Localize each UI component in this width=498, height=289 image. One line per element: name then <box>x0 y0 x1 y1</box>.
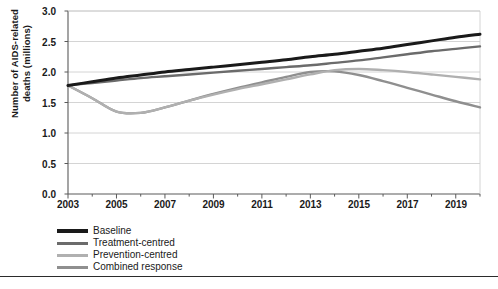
legend-swatch-combined-response-icon <box>57 266 88 269</box>
footer-divider <box>0 276 498 277</box>
legend-item-combined-response[interactable]: Combined response <box>57 261 297 273</box>
chart-plot-area: Number of AIDS-related deaths (millions)… <box>0 0 498 215</box>
legend-label-prevention-centred: Prevention-centred <box>93 249 178 261</box>
series-paths-group <box>68 34 480 113</box>
legend-label-combined-response: Combined response <box>93 261 183 273</box>
legend-item-baseline[interactable]: Baseline <box>57 225 297 237</box>
legend-swatch-treatment-centred-icon <box>57 242 88 245</box>
line-chart-svg <box>0 0 498 215</box>
legend-item-prevention-centred[interactable]: Prevention-centred <box>57 249 297 261</box>
legend-item-treatment-centred[interactable]: Treatment-centred <box>57 237 297 249</box>
chart-legend: Baseline Treatment-centred Prevention-ce… <box>57 225 297 273</box>
figure-container: Number of AIDS-related deaths (millions)… <box>0 0 498 289</box>
legend-label-treatment-centred: Treatment-centred <box>93 237 175 249</box>
legend-swatch-prevention-centred-icon <box>57 254 88 257</box>
x-tick-marks-group <box>68 194 480 199</box>
legend-label-baseline: Baseline <box>93 225 131 237</box>
gridlines-group <box>68 11 480 164</box>
legend-swatch-baseline-icon <box>57 229 88 233</box>
